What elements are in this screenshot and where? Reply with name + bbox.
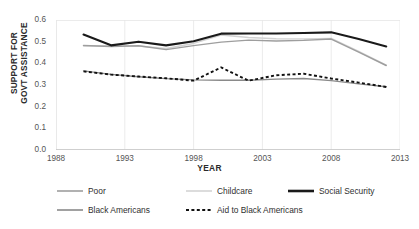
legend-label: Social Security	[319, 186, 374, 196]
legend-item-aid-to-black-americans[interactable]: Aid to Black Americans	[186, 205, 303, 215]
x-axis-tick-label: 1998	[174, 154, 214, 163]
legend-label: Childcare	[217, 186, 252, 196]
y-axis-tick-label: 0.1	[24, 124, 46, 132]
legend-item-poor[interactable]: Poor	[57, 186, 106, 196]
legend-item-childcare[interactable]: Childcare	[186, 186, 252, 196]
plot-area	[56, 20, 400, 150]
line-chart: SUPPORT FOR GOVT ASSISTANCE 0.00.10.20.3…	[0, 0, 419, 229]
series-line-black-americans	[84, 71, 387, 87]
x-axis-title: YEAR	[0, 163, 419, 173]
legend-swatch-icon	[57, 207, 83, 213]
legend-item-social-security[interactable]: Social Security	[288, 186, 374, 196]
legend-label: Aid to Black Americans	[217, 205, 303, 215]
x-axis-tick-label: 2013	[380, 154, 419, 163]
y-axis-tick-label: 0.0	[24, 146, 46, 154]
legend-swatch-icon	[57, 188, 83, 194]
y-axis-tick-label: 0.4	[24, 59, 46, 67]
y-axis-tick-label: 0.3	[24, 81, 46, 89]
legend-label: Black Americans	[88, 205, 150, 215]
x-axis-tick-label: 1988	[36, 154, 76, 163]
legend-swatch-icon	[186, 207, 212, 213]
legend-label: Poor	[88, 186, 106, 196]
legend-swatch-icon	[186, 188, 212, 194]
series-line-childcare	[84, 35, 387, 65]
legend-item-black-americans[interactable]: Black Americans	[57, 205, 150, 215]
chart-legend: PoorChildcareSocial SecurityBlack Americ…	[0, 186, 419, 226]
x-axis-tick-label: 1993	[105, 154, 145, 163]
y-axis-tick-label: 0.6	[24, 16, 46, 24]
y-axis-tick-label: 0.5	[24, 38, 46, 46]
y-axis-tick-label: 0.2	[24, 103, 46, 111]
x-axis-tick-label: 2003	[242, 154, 282, 163]
series-line-aid-to-black-americans	[84, 67, 387, 87]
plot-svg	[56, 20, 400, 150]
x-axis-tick-label: 2008	[311, 154, 351, 163]
legend-swatch-icon	[288, 188, 314, 194]
